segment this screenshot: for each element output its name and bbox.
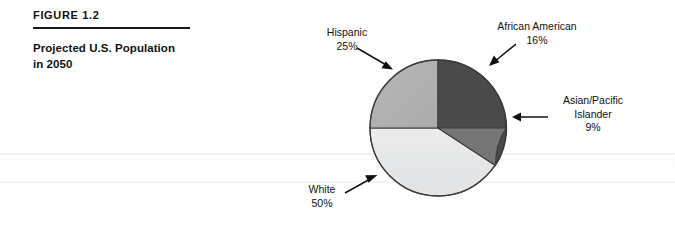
- label-asian-pacific-islander-name-1: Asian/Pacific: [551, 94, 635, 108]
- callout-arrow-asian-pacific-islander: [512, 113, 548, 122]
- label-asian-pacific-islander-percent: 9%: [551, 121, 635, 135]
- callout-arrow-white: [345, 175, 378, 193]
- label-asian-pacific-islander-name-2: Islander: [551, 108, 635, 122]
- label-hispanic: Hispanic 25%: [316, 26, 378, 53]
- label-hispanic-name: Hispanic: [316, 26, 378, 40]
- label-african-american: African American 16%: [489, 20, 585, 47]
- pie-slice-hispanic: [370, 60, 438, 128]
- label-white-percent: 50%: [297, 197, 347, 211]
- callout-arrow-african-american: [489, 44, 516, 66]
- label-hispanic-percent: 25%: [316, 40, 378, 54]
- label-asian-pacific-islander: Asian/Pacific Islander 9%: [551, 94, 635, 135]
- label-white: White 50%: [297, 183, 347, 210]
- label-african-american-name: African American: [489, 20, 585, 34]
- label-african-american-percent: 16%: [489, 34, 585, 48]
- label-white-name: White: [297, 183, 347, 197]
- figure-panel: FIGURE 1.2 Projected U.S. Population in …: [0, 0, 675, 233]
